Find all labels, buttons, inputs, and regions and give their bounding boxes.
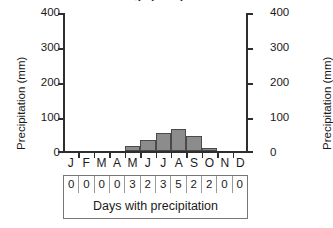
month-label-8: S [186,156,201,171]
bar-4 [125,146,140,151]
y-tick-right-300 [248,48,253,50]
days-value-7: 5 [171,176,186,193]
month-label-11: D [233,156,248,171]
chart-title: Average precipitation [0,0,324,1]
month-label-7: A [171,156,186,171]
days-value-1: 0 [79,176,94,193]
bar-cell-A-7 [171,13,186,151]
x-axis-month-labels: JFMAMJJASOND [63,156,248,171]
plot-area [63,13,248,153]
days-value-3: 0 [110,176,125,193]
days-values-row: 000032352200 [64,176,247,193]
month-label-3: A [109,156,124,171]
days-value-9: 2 [202,176,217,193]
bar-cell-J-5 [140,13,155,151]
month-label-10: N [217,156,232,171]
days-value-10: 0 [217,176,232,193]
y-tick-right-200 [248,83,253,85]
days-value-5: 2 [141,176,156,193]
days-value-8: 2 [187,176,202,193]
y-tick-label-right-300: 300 [270,42,289,54]
table-caption: Days with precipitation [64,195,247,217]
bar-7 [171,129,186,151]
month-label-0: J [63,156,78,171]
bar-cell-S-8 [186,13,201,151]
bar-cell-A-3 [109,13,124,151]
y-axis-title-left: Precipitation (mm) [15,57,27,150]
bar-cell-M-2 [94,13,109,151]
bar-5 [140,140,155,152]
month-label-4: M [125,156,140,171]
y-tick-label-right-400: 400 [270,7,289,19]
bar-8 [186,136,201,151]
y-tick-label-right-200: 200 [270,77,289,89]
month-label-2: M [94,156,109,171]
bar-6 [156,133,171,152]
y-tick-right-100 [248,118,253,120]
month-label-9: O [202,156,217,171]
bar-cell-N-10 [217,13,232,151]
days-value-2: 0 [95,176,110,193]
days-value-11: 0 [233,176,247,193]
y-tick-right-400 [248,13,253,15]
bar-cell-O-9 [202,13,217,151]
month-label-6: J [156,156,171,171]
bar-cell-J-6 [156,13,171,151]
month-label-1: F [78,156,93,171]
month-label-5: J [140,156,155,171]
y-tick-left-0 [58,151,63,153]
days-value-0: 0 [64,176,79,193]
days-with-precipitation-table: 000032352200 Days with precipitation [63,175,248,219]
days-value-4: 3 [125,176,140,193]
y-tick-label-right-100: 100 [270,112,289,124]
bar-cell-F-1 [78,13,93,151]
bar-cell-D-11 [233,13,248,151]
days-value-6: 3 [156,176,171,193]
bar-cell-M-4 [125,13,140,151]
y-tick-label-right-0: 0 [270,147,276,159]
y-tick-right-0 [248,151,253,153]
y-axis-title-right: Precipitation (mm) [321,57,333,150]
bar-series [63,13,248,151]
bar-9 [202,148,217,151]
bar-cell-J-0 [63,13,78,151]
